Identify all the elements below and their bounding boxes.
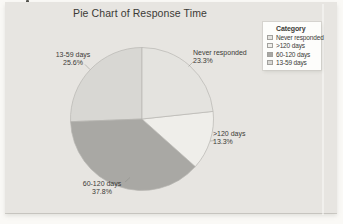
legend-row-60-120-days: 60-120 days	[267, 51, 318, 58]
legend-row-13-59-days: 13-59 days	[267, 59, 318, 66]
legend-row-never-responded: Never responded	[267, 34, 318, 41]
slice-label-gt120-days: >120 days 13.3%	[213, 130, 246, 145]
slice-label-never-responded: Never responded 23.3%	[193, 49, 247, 64]
legend-swatch-13-59-days	[267, 60, 273, 65]
legend-label: Never responded	[276, 34, 324, 41]
legend-swatch-gt120-days	[267, 43, 273, 48]
legend-swatch-60-120-days	[267, 52, 273, 57]
slice-label-pct: 23.3%	[193, 57, 247, 65]
slice-label-60-120-days: 60-120 days 37.8%	[74, 180, 130, 195]
legend-title: Category	[276, 25, 318, 32]
slice-label-text: Never responded	[193, 49, 247, 57]
legend-swatch-never-responded	[267, 35, 273, 40]
page: Pie Chart of Response Time Never respond…	[0, 0, 343, 224]
legend: Category Never responded >120 days 60-12…	[263, 22, 321, 70]
legend-row-gt120-days: >120 days	[267, 42, 318, 49]
slice-label-pct: 37.8%	[74, 188, 130, 196]
slice-label-text: >120 days	[213, 130, 246, 138]
slice-label-text: 60-120 days	[74, 180, 130, 188]
legend-label: 60-120 days	[276, 51, 310, 58]
slice-label-pct: 13.3%	[213, 138, 246, 146]
slice-label-text: 13-59 days	[50, 51, 96, 59]
slice-label-pct: 25.6%	[50, 59, 96, 67]
slice-label-13-59-days: 13-59 days 25.6%	[50, 51, 96, 66]
legend-label: >120 days	[276, 42, 305, 49]
legend-label: 13-59 days	[276, 59, 307, 66]
